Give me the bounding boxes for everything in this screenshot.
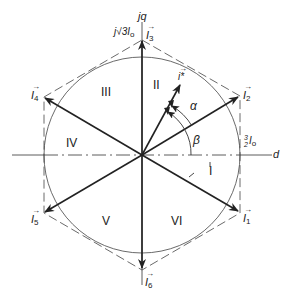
label-i-star: →i* [178, 71, 184, 82]
sector-label-iv: IV [66, 137, 77, 149]
sector-label-v: V [102, 215, 110, 227]
vector-i1 [142, 155, 238, 211]
beta-arc [168, 112, 191, 155]
alpha-arc [172, 106, 192, 126]
label-i4: →I4 [31, 89, 39, 103]
side-magnitude-label: 32Io [244, 134, 256, 148]
sector-label-ii: II [153, 79, 160, 91]
sector-label-iii: III [101, 86, 111, 98]
d-axis-label: d [273, 149, 279, 160]
sector-label-i: I [209, 165, 212, 177]
label-i2: →I2 [243, 89, 251, 103]
label-i1: →I1 [243, 212, 251, 226]
reference-vector-i-star [142, 85, 180, 155]
sector-label-vi: VI [171, 215, 182, 227]
label-i6: →I6 [145, 276, 153, 290]
alpha-label: α [190, 100, 197, 112]
jq-axis-label: jq [138, 11, 147, 22]
label-i5: →I5 [31, 213, 39, 227]
beta-label: β [193, 134, 200, 146]
space-vector-diagram [0, 0, 287, 299]
top-magnitude-label: j√3Io [114, 27, 135, 39]
label-i3: →I3 [146, 29, 154, 43]
vector-i5 [45, 155, 142, 212]
vector-i4 [45, 98, 142, 155]
